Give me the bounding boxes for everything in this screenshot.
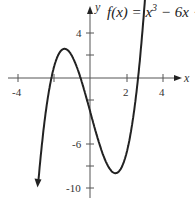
graph-plot: -4 2 4 4 -6 -10 x y: [0, 0, 195, 203]
x-axis-arrow-icon: [174, 75, 182, 81]
tick-y-neg6: -6: [72, 138, 82, 150]
curve-arrow-down-icon: [35, 179, 42, 188]
y-axis-label: y: [94, 0, 101, 14]
tick-x-neg4: -4: [12, 86, 22, 98]
tick-x-2: 2: [123, 86, 129, 98]
y-axis-arrow-icon: [87, 6, 93, 14]
tick-y-neg10: -10: [66, 182, 81, 194]
x-axis-label: x: [183, 71, 190, 85]
function-curve: [39, 0, 149, 180]
tick-x-4: 4: [159, 86, 165, 98]
tick-y-4: 4: [76, 27, 82, 39]
